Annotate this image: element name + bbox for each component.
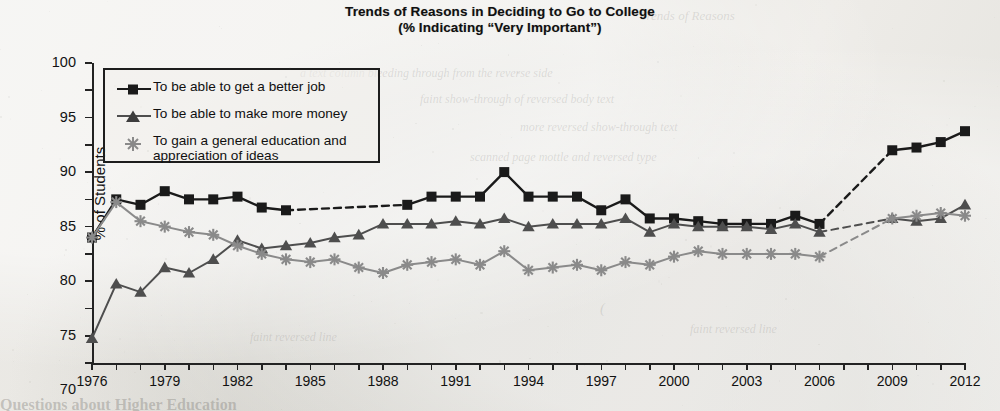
scan-speck [219,26,220,27]
scan-speck [777,252,778,253]
data-point-square [257,203,267,213]
series-segment [92,202,116,237]
x-axis-tick-label: 1991 [440,373,471,389]
x-axis-tick-label: 2009 [877,373,908,389]
scan-speck [161,315,162,316]
data-point-star [450,253,462,265]
x-axis-tick [431,363,433,370]
x-axis-tick-label: 2003 [731,373,762,389]
x-axis-tick-label: 2006 [804,373,835,389]
scan-speck [664,122,665,123]
triangle-marker [115,107,153,124]
x-axis-tick [601,363,603,370]
x-axis-tick [625,363,627,370]
data-point-triangle [498,212,510,223]
scan-speck [585,267,586,268]
scan-speck [0,116,2,118]
data-point-star [814,251,826,263]
data-point-star [886,212,898,224]
x-axis-tick [528,363,530,370]
data-point-star [159,221,171,233]
scan-speck [452,128,454,130]
x-axis-tick [649,363,651,370]
x-axis-tick [310,363,312,370]
scan-speck [289,67,291,69]
scan-speck [165,258,166,259]
scan-speck [285,76,286,77]
x-axis-tick [140,363,142,370]
scan-speck [8,96,10,98]
y-axis-tick: 70 [85,226,92,228]
scan-speck [710,245,712,247]
x-axis-tick [261,363,263,370]
y-axis-tick: 95 [85,89,92,91]
x-axis-tick [746,363,748,370]
x-axis-tick-label: 1979 [149,373,180,389]
x-axis-tick-label: 2012 [949,373,980,389]
scan-speck [674,380,675,381]
y-axis-tick-label: 80 [60,272,76,288]
data-point-square [596,205,606,215]
data-point-square [621,194,631,204]
scan-speck [682,405,683,406]
data-point-star [765,248,777,260]
data-point-triangle [353,229,365,240]
series-segment-dashed [286,205,407,210]
y-axis-tick-label: 70 [60,381,76,397]
legend-item-label: To be able to get a better job [153,79,325,94]
scan-speck [0,49,1,50]
data-point-square [936,137,946,147]
scan-speck [606,360,608,362]
data-point-square [402,200,412,210]
x-axis-tick [455,363,457,370]
y-axis-tick: 65 [85,253,92,255]
data-point-square [548,192,558,202]
data-point-square [645,213,655,223]
data-point-square [184,194,194,204]
data-point-star [304,256,316,268]
x-axis-tick-label: 1976 [76,373,107,389]
y-axis-tick-label: 95 [60,109,76,125]
square-marker [115,80,153,97]
x-axis-tick [479,363,481,370]
x-axis-tick [213,363,215,370]
scan-speck [593,266,595,268]
scan-speck [158,203,159,204]
scan-speck [949,118,950,119]
data-point-star [741,248,753,260]
data-point-star [280,253,292,265]
chart-legend: To be able to get a better job To be abl… [103,68,380,163]
data-point-square [160,186,170,196]
scan-speck [126,238,128,240]
scan-speck [128,116,129,117]
y-axis-tick: 55 [85,308,92,310]
scan-speck [437,279,439,281]
x-axis-tick [673,363,675,370]
legend-item-label: To be able to make more money [153,106,347,121]
data-point-triangle [450,215,462,226]
scan-speck [499,360,501,362]
x-axis-tick-label: 1988 [367,373,398,389]
scan-speck [480,312,482,314]
series-segment [92,284,116,339]
data-point-square [572,192,582,202]
scan-speck [946,124,948,126]
scan-speck [599,239,600,240]
data-point-triangle [159,262,171,273]
scan-speck [119,338,121,340]
legend-item: To be able to get a better job [115,79,370,97]
data-point-star [595,264,607,276]
y-axis-tick-label: 90 [60,163,76,179]
data-point-square [912,143,922,153]
scan-speck [576,244,577,245]
chart-title-line2: (% Indicating “Very Important”) [0,20,1000,36]
data-point-star [668,251,680,263]
scan-speck [785,298,787,300]
data-point-star [377,267,389,279]
x-axis-tick [91,363,93,370]
x-axis-tick-label: 1985 [295,373,326,389]
x-axis-tick-label: 1997 [586,373,617,389]
data-point-star [207,229,219,241]
chart-title: Trends of Reasons in Deciding to Go to C… [0,4,1000,35]
data-point-star [474,259,486,271]
